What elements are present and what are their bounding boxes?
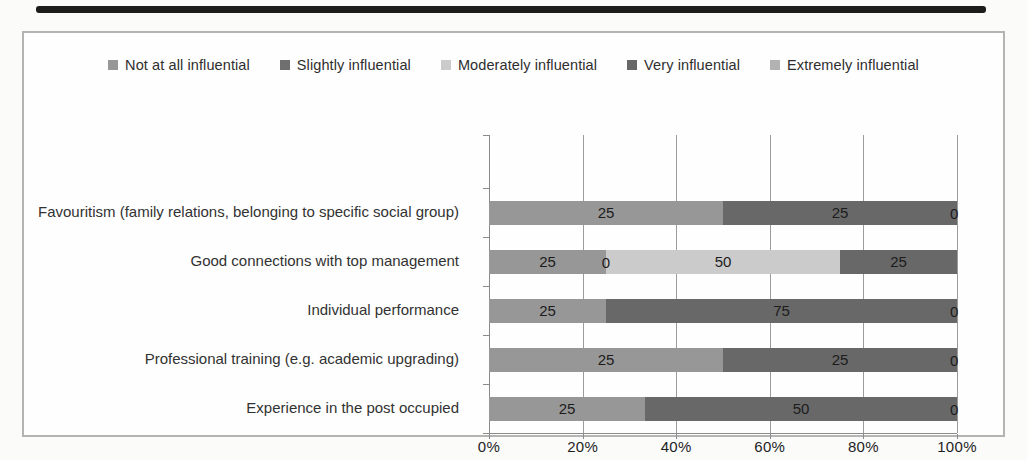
x-axis-tick-label: 80% — [848, 438, 879, 455]
bar-segment-very-influential: 25 — [723, 348, 957, 372]
bar-row: Professional training (e.g. academic upg… — [24, 335, 957, 384]
x-axis-tick-label: 40% — [661, 438, 692, 455]
legend-item-not-at-all-influential: Not at all influential — [108, 57, 250, 73]
legend-swatch-icon — [108, 60, 118, 70]
legend-item-slightly-influential: Slightly influential — [280, 57, 411, 73]
bar-segment-very-influential: 75 — [606, 299, 957, 323]
bar-segment-value: 25 — [598, 351, 615, 368]
bar-segment-moderately-influential: 50 — [606, 250, 840, 274]
category-label: Experience in the post occupied — [24, 399, 489, 418]
bar-track: 25750 — [489, 286, 957, 335]
bar-segment-value: 50 — [715, 253, 732, 270]
bar-segment-not-at-all-influential: 25 — [489, 250, 606, 274]
bar-segment-very-influential: 50 — [645, 397, 957, 421]
scan-artifact-bar — [36, 6, 986, 13]
category-label-text: Individual performance — [307, 301, 459, 320]
bar-segment-value: 25 — [539, 302, 556, 319]
category-label: Good connections with top management — [24, 252, 489, 271]
category-label-text: Favouritism (family relations, belonging… — [38, 203, 459, 222]
bar-segment-value: 25 — [559, 400, 576, 417]
legend-label: Slightly influential — [297, 57, 411, 73]
bar-segment-not-at-all-influential: 25 — [489, 348, 723, 372]
legend-label: Extremely influential — [787, 57, 919, 73]
bar-segment-value: 25 — [890, 253, 907, 270]
bar-zero-value: 0 — [602, 253, 610, 270]
legend-item-very-influential: Very influential — [627, 57, 740, 73]
category-axis-tick — [483, 433, 489, 434]
x-axis-tick-label: 20% — [567, 438, 598, 455]
x-axis-tick-label: 60% — [754, 438, 785, 455]
x-axis-tick-label: 0% — [478, 438, 500, 455]
legend-swatch-icon — [770, 60, 780, 70]
category-label: Professional training (e.g. academic upg… — [24, 350, 489, 369]
chart-frame: Not at all influentialSlightly influenti… — [22, 31, 1005, 437]
stacked-bar: 25750 — [489, 299, 957, 323]
bar-segment-value: 75 — [773, 302, 790, 319]
gridline — [957, 135, 958, 433]
bar-row: Experience in the post occupied25500 — [24, 384, 957, 433]
stacked-bar: 2505025 — [489, 250, 957, 274]
bar-row: Favouritism (family relations, belonging… — [24, 188, 957, 237]
category-label-text: Good connections with top management — [191, 252, 460, 271]
legend-swatch-icon — [280, 60, 290, 70]
category-label: Individual performance — [24, 301, 489, 320]
legend-label: Not at all influential — [125, 57, 250, 73]
chart-body: 0%20%40%60%80%100% Favouritism (family r… — [24, 91, 1003, 389]
bar-row: Good connections with top management2505… — [24, 237, 957, 286]
bar-segment-not-at-all-influential: 25 — [489, 397, 645, 421]
legend-label: Very influential — [644, 57, 740, 73]
bar-segment-value: 25 — [598, 204, 615, 221]
category-label: Favouritism (family relations, belonging… — [24, 203, 489, 222]
legend: Not at all influentialSlightly influenti… — [24, 57, 1003, 73]
bar-segment-very-influential: 25 — [723, 201, 957, 225]
legend-swatch-icon — [627, 60, 637, 70]
bar-zero-value: 0 — [950, 204, 958, 221]
bar-rows: Favouritism (family relations, belonging… — [24, 135, 957, 433]
bar-track: 25250 — [489, 335, 957, 384]
bar-segment-value: 25 — [832, 351, 849, 368]
bar-track: 2505025 — [489, 237, 957, 286]
category-label-text: Professional training (e.g. academic upg… — [145, 350, 459, 369]
bar-segment-value: 25 — [832, 204, 849, 221]
bar-track: 25250 — [489, 188, 957, 237]
bar-track: 25500 — [489, 384, 957, 433]
bar-segment-value: 25 — [539, 253, 556, 270]
bar-row: Individual performance25750 — [24, 286, 957, 335]
bar-segment-not-at-all-influential: 25 — [489, 299, 606, 323]
bar-zero-value: 0 — [950, 400, 958, 417]
bar-segment-not-at-all-influential: 25 — [489, 201, 723, 225]
bar-segment-value: 50 — [793, 400, 810, 417]
legend-swatch-icon — [441, 60, 451, 70]
bar-zero-value: 0 — [950, 302, 958, 319]
stacked-bar: 25250 — [489, 348, 957, 372]
x-axis-tick-label: 100% — [937, 438, 977, 455]
stacked-bar: 25250 — [489, 201, 957, 225]
legend-item-moderately-influential: Moderately influential — [441, 57, 597, 73]
bar-zero-value: 0 — [950, 351, 958, 368]
legend-label: Moderately influential — [458, 57, 597, 73]
stacked-bar: 25500 — [489, 397, 957, 421]
category-label-text: Experience in the post occupied — [246, 399, 459, 418]
legend-item-extremely-influential: Extremely influential — [770, 57, 919, 73]
bar-segment-very-influential: 25 — [840, 250, 957, 274]
